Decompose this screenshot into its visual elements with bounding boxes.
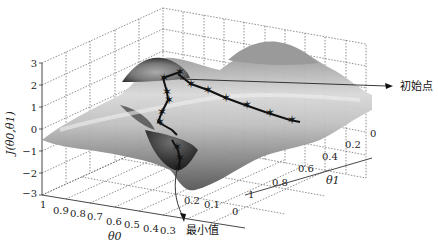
svg-text:−2: −2: [22, 168, 37, 179]
svg-text:−1: −1: [22, 146, 37, 157]
y-axis-label: θ1: [326, 174, 340, 187]
svg-text:2: 2: [31, 80, 37, 91]
svg-text:✶: ✶: [265, 106, 275, 120]
svg-text:0: 0: [232, 206, 238, 217]
svg-text:0.7: 0.7: [87, 211, 103, 222]
svg-text:✶: ✶: [155, 115, 165, 129]
start-label: 初始点: [400, 79, 433, 93]
svg-text:0.4: 0.4: [322, 151, 338, 162]
z-axis: 3 2 1 0 −1 −2 −3 J(θ0,θ1): [4, 58, 42, 199]
svg-text:✶: ✶: [159, 71, 169, 85]
svg-text:0.6: 0.6: [298, 163, 314, 174]
svg-text:0.8: 0.8: [272, 177, 288, 188]
svg-text:✶: ✶: [287, 113, 297, 127]
z-axis-label: J(θ0,θ1): [4, 111, 17, 157]
svg-text:✶: ✶: [175, 65, 185, 79]
x-axis-label: θ0: [108, 230, 122, 243]
svg-text:0: 0: [31, 124, 37, 135]
svg-text:0.3: 0.3: [160, 225, 176, 236]
svg-text:0: 0: [370, 128, 376, 139]
svg-text:0.1: 0.1: [204, 199, 220, 210]
svg-text:0.8: 0.8: [70, 208, 86, 219]
svg-text:0.9: 0.9: [53, 205, 69, 216]
svg-text:1: 1: [248, 189, 254, 200]
svg-text:✶: ✶: [203, 83, 213, 97]
svg-text:✶: ✶: [221, 91, 231, 105]
svg-text:0.4: 0.4: [143, 223, 159, 234]
svg-text:✶: ✶: [242, 98, 252, 112]
svg-text:0.2: 0.2: [184, 195, 200, 206]
svg-text:✶: ✶: [173, 161, 183, 175]
svg-text:1: 1: [31, 102, 37, 113]
svg-text:3: 3: [31, 58, 37, 69]
cost-surface: [42, 42, 372, 191]
svg-text:1: 1: [40, 199, 46, 210]
min-label: 最小值: [186, 224, 219, 237]
svg-text:0.5: 0.5: [124, 219, 140, 230]
svg-text:0.6: 0.6: [106, 216, 122, 227]
surface-plot: ✶ ✶ ✶ ✶ ✶ ✶ ✶ ✶ ✶ ✶ ✶ ✶ ✶ ✶ ✶ 初始点 最小值 3 …: [0, 0, 438, 245]
svg-text:−3: −3: [22, 188, 37, 199]
svg-text:0.2: 0.2: [345, 139, 361, 150]
